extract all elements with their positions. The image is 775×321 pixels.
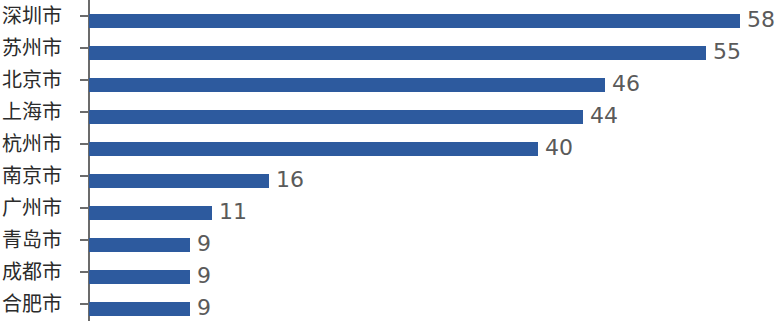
chart-row: 成都市 9 bbox=[0, 256, 775, 288]
bar bbox=[89, 238, 190, 252]
bar bbox=[89, 270, 190, 284]
chart-row: 南京市 16 bbox=[0, 160, 775, 192]
axis-tick bbox=[80, 47, 89, 49]
bar-value-label: 55 bbox=[713, 38, 741, 66]
bar-value-label: 11 bbox=[219, 198, 247, 226]
bar-value-label: 9 bbox=[197, 262, 211, 290]
category-label: 杭州市 bbox=[0, 128, 78, 160]
bar bbox=[89, 206, 212, 220]
bar bbox=[89, 78, 605, 92]
bar-value-label: 40 bbox=[545, 134, 573, 162]
bar-value-label: 9 bbox=[197, 230, 211, 258]
axis-tick bbox=[80, 303, 89, 305]
category-label: 南京市 bbox=[0, 160, 78, 192]
bar bbox=[89, 174, 269, 188]
bar-value-label: 46 bbox=[612, 70, 640, 98]
chart-row: 深圳市 58 bbox=[0, 0, 775, 32]
axis-tick bbox=[80, 79, 89, 81]
category-label: 合肥市 bbox=[0, 288, 78, 320]
bar bbox=[89, 142, 538, 156]
bar bbox=[89, 14, 740, 28]
chart-row: 北京市 46 bbox=[0, 64, 775, 96]
chart-row: 苏州市 55 bbox=[0, 32, 775, 64]
category-label: 广州市 bbox=[0, 192, 78, 224]
category-label: 上海市 bbox=[0, 96, 78, 128]
axis-tick bbox=[80, 143, 89, 145]
horizontal-bar-chart: 深圳市 58 苏州市 55 北京市 46 上海市 44 杭州市 40 南京市 1… bbox=[0, 0, 775, 321]
chart-row: 青岛市 9 bbox=[0, 224, 775, 256]
category-label: 青岛市 bbox=[0, 224, 78, 256]
bar-value-label: 16 bbox=[276, 166, 304, 194]
category-label: 苏州市 bbox=[0, 32, 78, 64]
bar-value-label: 44 bbox=[590, 102, 618, 130]
axis-tick bbox=[80, 111, 89, 113]
bar-value-label: 9 bbox=[197, 294, 211, 321]
bar bbox=[89, 46, 706, 60]
chart-row: 合肥市 9 bbox=[0, 288, 775, 320]
chart-row: 上海市 44 bbox=[0, 96, 775, 128]
axis-tick bbox=[80, 15, 89, 17]
axis-tick bbox=[80, 239, 89, 241]
bar-value-label: 58 bbox=[747, 6, 775, 34]
bar bbox=[89, 110, 583, 124]
axis-tick bbox=[80, 175, 89, 177]
axis-tick bbox=[80, 207, 89, 209]
category-label: 成都市 bbox=[0, 256, 78, 288]
axis-tick bbox=[80, 271, 89, 273]
category-label: 深圳市 bbox=[0, 0, 78, 32]
chart-row: 广州市 11 bbox=[0, 192, 775, 224]
category-label: 北京市 bbox=[0, 64, 78, 96]
chart-row: 杭州市 40 bbox=[0, 128, 775, 160]
bar bbox=[89, 302, 190, 316]
